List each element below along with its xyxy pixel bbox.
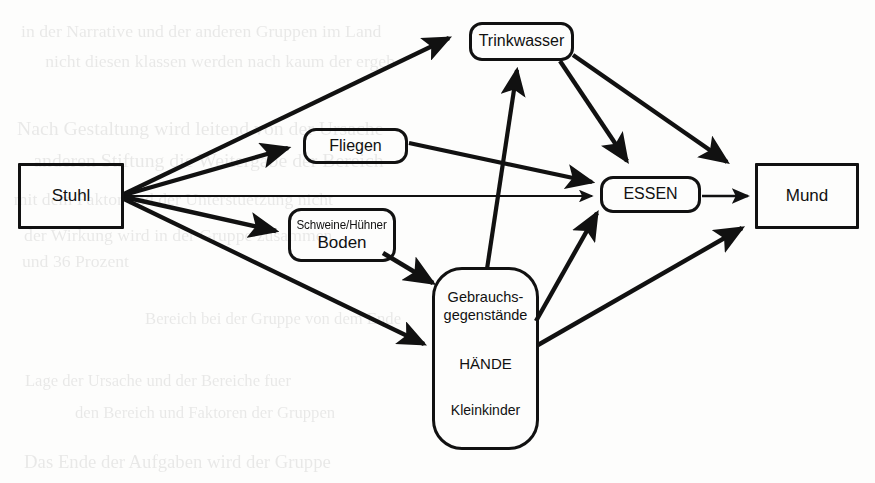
edge-gebrauchsgegenstaende-mund (538, 228, 742, 345)
node-boden-label-line1: Schweine/Hühner (297, 218, 387, 232)
node-stuhl-label: Stuhl (52, 186, 91, 206)
node-gebrauchsgegenstaende-label-line2: gegenstände (444, 306, 528, 324)
node-gebrauchsgegenstaende-label-line1: Gebrauchs- (448, 288, 524, 306)
node-boden[interactable]: Schweine/Hühner Boden (288, 208, 396, 262)
node-stuhl[interactable]: Stuhl (18, 163, 124, 229)
node-mund-label: Mund (786, 186, 829, 206)
node-boden-label-line2: Boden (317, 233, 366, 253)
node-gebrauchsgegenstaende-label-haende: HÄNDE (459, 355, 512, 372)
node-gebrauchsgegenstaende-label-kleinkinder: Kleinkinder (451, 402, 520, 418)
edge-trinkwasser-mund (573, 55, 727, 162)
edge-stuhl-boden (124, 197, 276, 231)
node-gebrauchsgegenstaende[interactable]: Gebrauchs- gegenstände HÄNDE Kleinkinder (432, 267, 539, 450)
node-essen[interactable]: ESSEN (600, 176, 701, 213)
edge-gebrauchsgegenstaende-essen (536, 213, 597, 321)
node-essen-label: ESSEN (623, 185, 677, 203)
node-fliegen-label: Fliegen (329, 137, 381, 155)
edge-gebrauchsgegenstaende-trinkwasser (487, 70, 517, 269)
diagram-canvas: in der Narrative und der anderen Gruppen… (0, 0, 875, 483)
node-trinkwasser[interactable]: Trinkwasser (469, 22, 574, 61)
node-trinkwasser-label: Trinkwasser (479, 32, 565, 50)
node-fliegen[interactable]: Fliegen (303, 128, 408, 164)
node-mund[interactable]: Mund (755, 163, 859, 229)
edge-trinkwasser-essen (560, 61, 627, 161)
edge-stuhl-trinkwasser (124, 38, 449, 194)
